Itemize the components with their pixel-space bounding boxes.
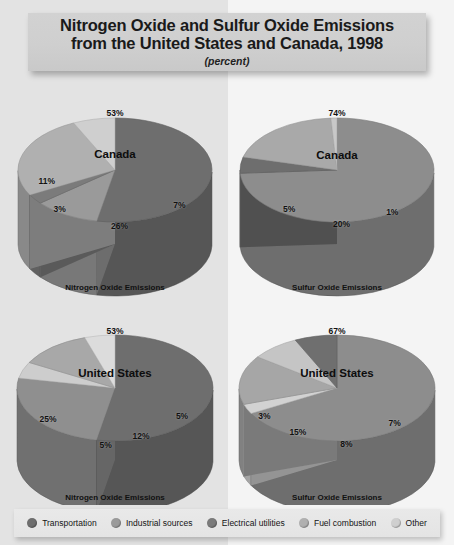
pie-country-title: United States: [78, 367, 152, 379]
legend-swatch-icon: [207, 518, 217, 528]
legend-item: Transportation: [27, 518, 97, 528]
pie-country-title: United States: [300, 367, 374, 379]
pie-chart-canada-sox: 74%5%20%1%CanadaSulfur Oxide Emissions: [230, 78, 444, 298]
pie-caption: Sulfur Oxide Emissions: [292, 283, 382, 292]
legend-swatch-icon: [27, 518, 37, 528]
pie-slice-value-label: 5%: [176, 411, 188, 421]
pie-slice-value-label: 8%: [340, 439, 352, 449]
legend-label: Electrical utilities: [222, 518, 285, 528]
pie-country-title: Canada: [316, 149, 358, 161]
pie-country-title: Canada: [94, 148, 136, 160]
legend-label: Transportation: [42, 518, 97, 528]
pie-slice-value-label: 53%: [106, 326, 123, 336]
figure-stage: Nitrogen Oxide and Sulfur Oxide Emission…: [0, 0, 454, 555]
pie-chart-canada-nox: 53%11%3%26%7%CanadaNitrogen Oxide Emissi…: [8, 78, 222, 298]
pie-caption: Sulfur Oxide Emissions: [292, 493, 382, 502]
pie-caption: Nitrogen Oxide Emissions: [65, 283, 165, 292]
legend-swatch-icon: [111, 518, 121, 528]
legend-swatch-icon: [391, 518, 401, 528]
pie-slice-value-label: 12%: [133, 431, 150, 441]
figure-title-line1: Nitrogen Oxide and Sulfur Oxide Emission…: [60, 17, 394, 35]
pie-caption: Nitrogen Oxide Emissions: [65, 493, 165, 502]
pie-slice-value-label: 53%: [106, 108, 123, 118]
figure-title-line2: from the United States and Canada, 1998: [71, 35, 383, 53]
pie-chart-us-nox: 53%25%5%12%5%United StatesNitrogen Oxide…: [8, 300, 222, 505]
pie-slice-value-label: 67%: [328, 326, 345, 336]
figure-title-subtitle: (percent): [205, 55, 250, 67]
pie-slice-value-label: 20%: [333, 219, 350, 229]
legend-item: Other: [391, 518, 427, 528]
figure-title-box: Nitrogen Oxide and Sulfur Oxide Emission…: [28, 13, 426, 71]
pie-slice-value-label: 26%: [111, 221, 128, 231]
legend-item: Fuel combustion: [299, 518, 376, 528]
legend-label: Fuel combustion: [314, 518, 376, 528]
pie-slice-value-label: 5%: [283, 204, 295, 214]
pie-slice-value-label: 25%: [39, 414, 56, 424]
legend-swatch-icon: [299, 518, 309, 528]
legend: TransportationIndustrial sourcesElectric…: [14, 509, 440, 537]
pie-slice-value-label: 3%: [258, 411, 270, 421]
legend-label: Other: [406, 518, 427, 528]
pie-slice-value-label: 11%: [39, 176, 56, 186]
pie-chart-us-sox: 67%3%15%8%7%United StatesSulfur Oxide Em…: [230, 300, 444, 505]
pie-slice-value-label: 1%: [386, 207, 398, 217]
pie-slice-value-label: 5%: [100, 440, 112, 450]
pie-slice-value-label: 7%: [389, 418, 401, 428]
legend-item: Electrical utilities: [207, 518, 285, 528]
pie-slice-value-label: 3%: [54, 204, 66, 214]
legend-label: Industrial sources: [126, 518, 193, 528]
pie-slice-value-label: 74%: [328, 108, 345, 118]
pie-slice-value-label: 15%: [289, 427, 306, 437]
pie-slice-value-label: 7%: [173, 200, 185, 210]
legend-item: Industrial sources: [111, 518, 193, 528]
